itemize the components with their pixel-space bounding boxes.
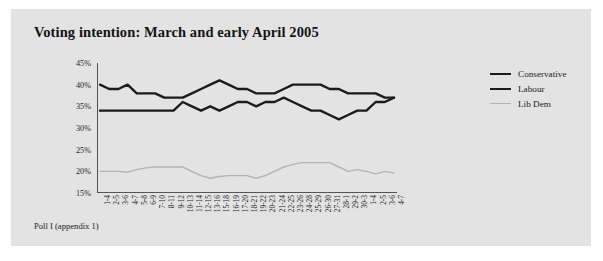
chart-title: Voting intention: March and early April … xyxy=(34,24,319,41)
x-axis-tick-label: 1-4 xyxy=(103,195,112,205)
x-axis-tick-label: 3-6 xyxy=(388,195,397,205)
x-axis-tick-label: 19-22 xyxy=(259,195,268,212)
x-axis-labels: 1-42-53-64-75-86-97-108-119-1210-1311-14… xyxy=(97,195,397,241)
y-axis-labels: 15%20%25%30%35%40%45% xyxy=(55,63,91,193)
x-axis-tick-label: 8-11 xyxy=(167,195,176,208)
y-axis-tick-label: 30% xyxy=(76,124,91,133)
x-axis-tick-label: 7-10 xyxy=(158,195,167,209)
x-axis-tick-label: 25-29 xyxy=(314,195,323,212)
x-axis-tick-label: 21-24 xyxy=(278,195,287,212)
x-axis-tick-label: 13-16 xyxy=(213,195,222,212)
x-axis-tick-label: 10-13 xyxy=(186,195,195,212)
y-axis-tick-label: 20% xyxy=(76,167,91,176)
x-axis-tick-label: 22-25 xyxy=(287,195,296,212)
legend-label: Labour xyxy=(518,84,545,94)
x-axis-tick-label: 5-8 xyxy=(140,195,149,205)
x-axis-tick-label: 24-28 xyxy=(305,195,314,212)
x-axis-tick-label: 11-14 xyxy=(195,195,204,212)
x-axis-tick-label: 23-26 xyxy=(296,195,305,212)
chart-legend: ConservativeLabourLib Dem xyxy=(490,67,590,112)
x-axis-tick-label: 28-1 xyxy=(342,195,351,209)
legend-line-icon xyxy=(490,103,511,104)
chart-svg xyxy=(97,63,397,193)
x-axis-tick-label: 3-6 xyxy=(121,195,130,205)
x-axis-tick-label: 15-18 xyxy=(222,195,231,212)
x-axis-tick-label: 4-7 xyxy=(397,195,406,205)
figure-caption: Poll I (appendix 1) xyxy=(34,221,99,231)
legend-line-icon xyxy=(490,73,511,75)
x-axis-tick-label: 1-4 xyxy=(369,195,378,205)
plot-area xyxy=(97,63,397,193)
x-axis-tick-label: 27-31 xyxy=(333,195,342,212)
x-axis-tick-label: 26-30 xyxy=(324,195,333,212)
x-axis-tick-label: 4-7 xyxy=(131,195,140,205)
legend-label: Lib Dem xyxy=(518,99,551,109)
y-axis-tick-label: 15% xyxy=(76,189,91,198)
legend-item: Labour xyxy=(490,82,590,95)
x-axis-tick-label: 6-9 xyxy=(149,195,158,205)
x-axis-tick-label: 2-5 xyxy=(379,195,388,205)
y-axis-tick-label: 25% xyxy=(76,145,91,154)
y-axis-tick-label: 40% xyxy=(76,80,91,89)
x-axis-tick-label: 2-5 xyxy=(112,195,121,205)
x-axis-tick-label: 9-12 xyxy=(177,195,186,209)
x-axis-tick-label: 30-3 xyxy=(360,195,369,209)
legend-item: Conservative xyxy=(490,67,590,80)
figure-card: Voting intention: March and early April … xyxy=(11,9,591,246)
x-axis-tick-label: 17-20 xyxy=(241,195,250,212)
y-axis-tick-label: 35% xyxy=(76,102,91,111)
x-axis-tick-label: 18-21 xyxy=(250,195,259,212)
legend-line-icon xyxy=(490,88,511,90)
x-axis-tick-label: 20-23 xyxy=(268,195,277,212)
x-axis-tick-label: 16-19 xyxy=(232,195,241,212)
legend-label: Conservative xyxy=(518,69,566,79)
x-axis-tick-label: 12-15 xyxy=(204,195,213,212)
y-axis-tick-label: 45% xyxy=(76,59,91,68)
x-axis-tick-label: 29-2 xyxy=(351,195,360,209)
legend-item: Lib Dem xyxy=(490,97,590,110)
